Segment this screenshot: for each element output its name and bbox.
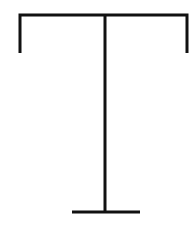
t-shape-figure bbox=[0, 0, 195, 225]
canvas-background bbox=[0, 0, 195, 225]
drawing-canvas bbox=[0, 0, 195, 225]
